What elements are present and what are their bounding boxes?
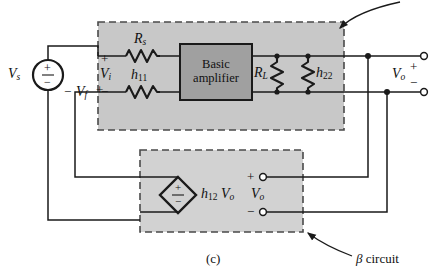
- node-dot-h22-top: [305, 53, 310, 58]
- terminal-output-negative: [421, 89, 428, 96]
- node-dot-rl-top: [274, 53, 279, 58]
- dependent-source-label: h12 Vo: [201, 187, 234, 203]
- input-plus-sign: +: [101, 52, 108, 65]
- feedback-minus-sign: −: [64, 85, 71, 98]
- resistor-h11-label: h11: [131, 68, 147, 84]
- output-plus-sign: +: [410, 60, 417, 73]
- source-plus-sign: +: [44, 62, 51, 74]
- beta-callout-arrow: [308, 233, 352, 256]
- resistor-rs-label: Rs: [134, 32, 146, 48]
- terminal-beta-negative: [260, 209, 267, 216]
- node-dot-rl-bottom: [274, 89, 279, 94]
- input-voltage-label: Vi: [100, 67, 111, 83]
- beta-plus-sign: +: [247, 170, 254, 183]
- circuit-diagram: [0, 0, 435, 274]
- beta-minus-sign: −: [247, 205, 254, 218]
- amplifier-callout-arrow: [340, 2, 400, 28]
- resistor-h22-label: h22: [316, 66, 333, 82]
- output-voltage-label: Vo: [392, 67, 405, 83]
- beta-circuit-annotation: β circuit: [356, 252, 399, 265]
- output-minus-sign: −: [410, 76, 417, 89]
- feedback-voltage-label: Vf: [76, 85, 87, 101]
- basic-amplifier-label: Basic amplifier: [180, 57, 252, 85]
- source-label: Vs: [8, 67, 20, 83]
- input-minus-sign: −: [101, 85, 108, 98]
- figure-caption: (c): [206, 252, 220, 265]
- terminal-output-positive: [421, 53, 428, 60]
- terminal-beta-positive: [260, 174, 267, 181]
- dependent-source-minus-sign: −: [175, 196, 181, 207]
- source-minus-sign: −: [44, 76, 51, 88]
- dependent-source-plus-sign: +: [175, 182, 181, 193]
- node-dot-h22-bottom: [305, 89, 310, 94]
- resistor-rl-label: RL: [254, 66, 268, 82]
- beta-output-voltage-label: Vo: [251, 187, 264, 203]
